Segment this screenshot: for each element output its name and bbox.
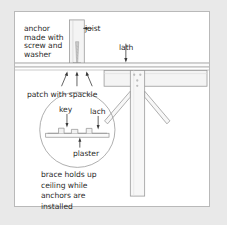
label-plaster: plaster — [73, 150, 99, 159]
detail-lath-arrow-icon — [97, 116, 100, 129]
label-key: key — [59, 106, 72, 115]
brace-diagonal-left-shape — [105, 91, 131, 124]
label-joist: joist — [85, 25, 101, 34]
ceiling-layers — [15, 63, 209, 70]
brace-top-plate-shape — [104, 70, 207, 86]
patch-arrows-icon — [62, 71, 93, 86]
brace-post-shape — [130, 70, 144, 196]
key-arrow-icon — [65, 114, 68, 127]
brace-diagonal-right-shape — [145, 91, 170, 124]
label-caption: brace holds up ceiling while anchors are… — [41, 170, 97, 212]
plaster-arrow-icon — [78, 138, 81, 148]
label-patch-with-spackle: patch with spackle — [27, 91, 97, 100]
diagram-frame: anchor made with screw and washer joist … — [14, 11, 210, 207]
plaster-lath-cross-section — [46, 128, 109, 137]
label-lath: lath — [119, 44, 133, 53]
label-anchor: anchor made with screw and washer — [24, 25, 64, 59]
label-detail-lath: lach — [90, 108, 106, 117]
